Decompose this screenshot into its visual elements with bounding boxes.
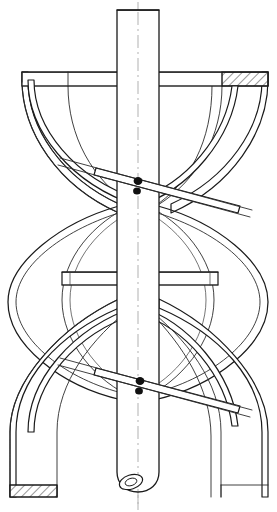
node-lower-crossing bbox=[136, 377, 145, 385]
auger-screw-drawing bbox=[0, 0, 277, 512]
node-upper-crossing-secondary bbox=[133, 187, 141, 194]
middle-left-outer-lobe-inner bbox=[16, 212, 126, 394]
section-hatch-top-right bbox=[222, 72, 268, 86]
node-lower-crossing-secondary bbox=[135, 387, 143, 394]
node-upper-crossing bbox=[134, 177, 143, 185]
section-hatch-bottom-left bbox=[10, 485, 57, 497]
technical-drawing-canvas: Double-helix auger screw elevation view … bbox=[0, 0, 277, 512]
